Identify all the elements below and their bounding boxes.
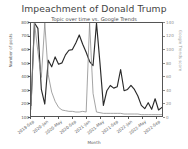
y-tick-mark-right <box>163 76 165 77</box>
series-canvas <box>31 23 162 116</box>
page-title: Impeachment of Donald Trump <box>0 3 188 14</box>
y-tick-mark-left <box>28 49 30 50</box>
y-tick-label-right: 60 <box>166 74 186 79</box>
y-tick-mark-right <box>163 103 165 104</box>
y-tick-mark-right <box>163 63 165 64</box>
y-tick-label-right: 120 <box>166 33 186 38</box>
y-tick-label-left: 100 <box>0 115 29 120</box>
y-tick-label-right: 40 <box>166 88 186 93</box>
y-tick-label-left: 500 <box>0 61 29 66</box>
y-tick-mark-left <box>28 36 30 37</box>
y-tick-mark-left <box>28 76 30 77</box>
y-tick-label-left: 400 <box>0 74 29 79</box>
y-tick-label-right: 80 <box>166 61 186 66</box>
series-line <box>31 23 162 115</box>
y-tick-mark-right <box>163 36 165 37</box>
y-tick-label-left: 300 <box>0 88 29 93</box>
y-tick-mark-left <box>28 90 30 91</box>
y-tick-mark-left <box>28 63 30 64</box>
y-tick-mark-right <box>163 90 165 91</box>
series-line <box>31 23 162 110</box>
y-tick-label-left: 200 <box>0 101 29 106</box>
chart-figure: Impeachment of Donald Trump Topic over t… <box>0 0 188 149</box>
y-tick-label-right: 100 <box>166 47 186 52</box>
y-tick-label-left: 700 <box>0 33 29 38</box>
y-tick-label-right: 0 <box>166 115 186 120</box>
y-tick-mark-left <box>28 103 30 104</box>
y-tick-label-right: 20 <box>166 101 186 106</box>
y-tick-mark-right <box>163 49 165 50</box>
y-tick-mark-right <box>163 117 165 118</box>
y-tick-label-left: 800 <box>0 20 29 25</box>
y-tick-label-left: 600 <box>0 47 29 52</box>
y-tick-label-right: 140 <box>166 20 186 25</box>
plot-area <box>30 22 163 117</box>
y-tick-mark-left <box>28 22 30 23</box>
y-tick-mark-right <box>163 22 165 23</box>
